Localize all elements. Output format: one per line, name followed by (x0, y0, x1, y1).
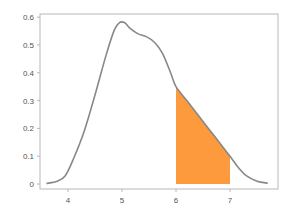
x-axis: 4567 (66, 189, 233, 205)
x-tick-label: 6 (174, 196, 179, 205)
y-tick-label: 0 (30, 180, 35, 189)
y-tick-label: 0.2 (23, 124, 35, 133)
shaded-area (176, 87, 230, 184)
x-tick-label: 4 (66, 196, 71, 205)
density-chart: 00.10.20.30.40.50.6 4567 (0, 0, 292, 217)
x-tick-label: 5 (120, 196, 125, 205)
y-tick-label: 0.5 (23, 41, 35, 50)
y-tick-label: 0.4 (23, 69, 35, 78)
y-axis: 00.10.20.30.40.50.6 (23, 13, 40, 189)
x-tick-label: 7 (228, 196, 233, 205)
y-tick-label: 0.6 (23, 13, 35, 22)
plot-frame (40, 14, 278, 189)
y-tick-label: 0.1 (23, 152, 35, 161)
density-curve (46, 22, 267, 184)
y-tick-label: 0.3 (23, 97, 35, 106)
